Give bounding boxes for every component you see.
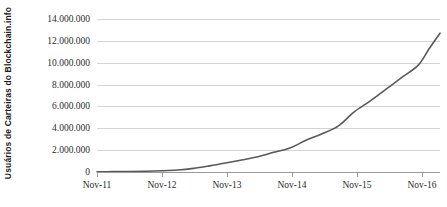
y-axis-title: Usuários de Carteiras do Blockchain.info	[0, 0, 16, 186]
x-axis-tick	[422, 173, 423, 177]
y-axis-tick-label: 0	[85, 167, 90, 177]
x-axis-tick	[162, 173, 163, 177]
x-axis-tick	[97, 173, 98, 177]
x-axis-tick	[357, 173, 358, 177]
x-axis-tick-label: Nov-12	[132, 179, 192, 191]
x-axis-tick-label: Nov-13	[197, 179, 257, 191]
y-axis-tick-label: 10.000.000	[47, 58, 90, 68]
x-axis-line	[97, 172, 440, 173]
series-path	[97, 33, 440, 172]
plot-area	[97, 19, 440, 172]
y-axis-tick-label: 12.000.000	[47, 36, 90, 46]
chart-container: Usuários de Carteiras do Blockchain.info…	[0, 0, 447, 207]
y-axis-tick-label: 4.000.000	[52, 123, 90, 133]
y-axis-title-text: Usuários de Carteiras do Blockchain.info	[3, 7, 13, 179]
y-axis-tick-label: 6.000.000	[52, 101, 90, 111]
y-axis-tick-label: 14.000.000	[47, 14, 90, 24]
x-axis-tick-label: Nov-15	[327, 179, 387, 191]
x-axis-tick	[292, 173, 293, 177]
x-axis-tick-label: Nov-14	[262, 179, 322, 191]
x-axis-tick	[227, 173, 228, 177]
y-axis-tick-label: 8.000.000	[52, 80, 90, 90]
y-axis-tick-labels: 02.000.0004.000.0006.000.0008.000.00010.…	[16, 0, 94, 207]
x-axis-tick-label: Nov-11	[67, 179, 127, 191]
series-line-usuarios-de-carteiras	[97, 19, 440, 172]
y-axis-tick-label: 2.000.000	[52, 145, 90, 155]
x-axis-tick-label: Nov-16	[392, 179, 447, 191]
